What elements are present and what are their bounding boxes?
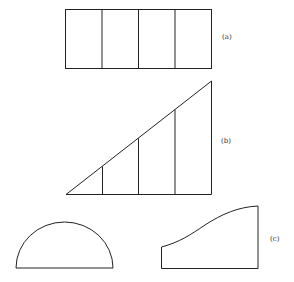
shape-c-curved-region (162, 206, 259, 269)
label-c: (c) (270, 235, 279, 243)
shape-a-rectangle (66, 10, 212, 69)
label-a: (a) (222, 33, 232, 41)
diagram-canvas (0, 0, 294, 282)
label-b: (b) (221, 137, 231, 145)
shape-c-semicircle (16, 222, 113, 268)
shape-b-triangle (66, 81, 212, 195)
